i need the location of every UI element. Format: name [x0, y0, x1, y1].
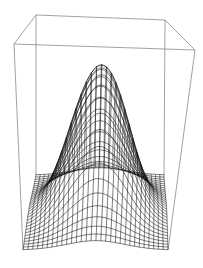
mesh-line: [101, 67, 107, 241]
mesh-line: [96, 65, 102, 241]
box-edge: [168, 50, 195, 250]
box-edge: [14, 15, 36, 44]
mesh-line: [91, 66, 97, 240]
mesh-line: [86, 72, 91, 241]
box-edge: [36, 15, 165, 20]
box-edge: [14, 44, 195, 50]
mesh-line: [106, 73, 112, 241]
box-edge: [165, 20, 195, 50]
mesh-line: [111, 83, 117, 242]
box-edge: [14, 44, 23, 250]
surface-plot: [0, 0, 203, 268]
mesh-line: [23, 241, 168, 250]
mesh-line: [155, 174, 158, 249]
box-edge: [164, 20, 165, 175]
wireframe-surface: [23, 65, 168, 250]
mesh-line: [28, 75, 166, 212]
